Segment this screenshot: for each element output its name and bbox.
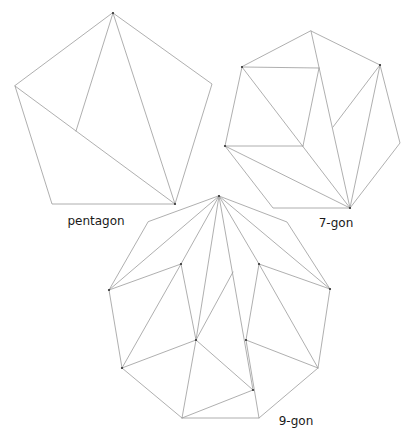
nonagon-label: 9-gon: [279, 414, 314, 428]
vertex-dot-icon: [258, 263, 260, 265]
vertex-dot-icon: [195, 339, 197, 341]
nonagon-outline: [109, 196, 330, 418]
pentagon-figure: pentagon: [15, 12, 212, 228]
heptagon-outline: [225, 31, 400, 208]
heptagon-diagonal: [242, 67, 350, 208]
nonagon-diagonal: [109, 264, 181, 290]
heptagon-diagonal: [242, 67, 319, 68]
nonagon-diagonal: [182, 340, 196, 418]
heptagon-diagonal: [333, 65, 380, 127]
nonagon-diagonal: [196, 340, 253, 390]
vertex-dot-icon: [112, 12, 114, 14]
vertex-dot-icon: [241, 66, 243, 68]
heptagon-diagonal: [303, 68, 319, 146]
vertex-dot-icon: [252, 389, 254, 391]
vertex-dot-icon: [224, 145, 226, 147]
vertex-dot-icon: [108, 289, 110, 291]
nonagon-figure: 9-gon: [108, 195, 331, 428]
nonagon-diagonal: [246, 340, 259, 418]
heptagon-figure: 7-gon: [224, 31, 400, 230]
vertex-dot-icon: [349, 207, 351, 209]
nonagon-diagonal: [246, 340, 318, 368]
nonagon-diagonal: [122, 340, 196, 368]
polygon-triangulation-diagram: pentagon 7-gon 9-gon: [0, 0, 409, 432]
nonagon-diagonal: [246, 264, 259, 340]
nonagon-diagonal: [219, 196, 330, 289]
vertex-dot-icon: [379, 64, 381, 66]
vertex-dot-icon: [121, 367, 123, 369]
pentagon-diagonal: [15, 86, 175, 204]
nonagon-vertex-marks: [108, 195, 331, 391]
heptagon-diagonal: [350, 65, 380, 208]
nonagon-diagonal: [259, 264, 330, 289]
nonagon-diagonal: [109, 196, 219, 290]
heptagon-vertex-marks: [224, 64, 381, 209]
nonagon-diagonal: [181, 264, 196, 340]
vertex-dot-icon: [218, 195, 220, 197]
vertex-dot-icon: [174, 203, 176, 205]
vertex-dot-icon: [180, 263, 182, 265]
vertex-dot-icon: [245, 339, 247, 341]
pentagon-label: pentagon: [67, 214, 124, 228]
heptagon-diagonal: [311, 31, 350, 208]
heptagon-diagonals: [225, 31, 380, 208]
pentagon-diagonals: [15, 13, 175, 204]
nonagon-diagonal: [182, 390, 253, 418]
pentagon-diagonal: [113, 13, 175, 204]
nonagon-diagonal: [259, 264, 318, 368]
nonagon-diagonal: [122, 264, 181, 368]
vertex-dot-icon: [329, 288, 331, 290]
pentagon-diagonal: [76, 13, 113, 131]
pentagon-outline: [15, 13, 212, 204]
heptagon-diagonal: [225, 146, 350, 208]
heptagon-label: 7-gon: [319, 216, 354, 230]
